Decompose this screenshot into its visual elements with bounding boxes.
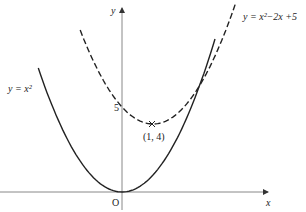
curve-label-shifted: y = x²−2x +5 <box>242 11 297 22</box>
parabola-shifted-dashed <box>80 5 235 124</box>
parabola-x-squared <box>38 39 215 192</box>
origin-label: O <box>112 197 119 208</box>
y-axis-label: y <box>110 5 116 16</box>
graph-canvas: y x O 5 (1, 4) y = x² y = x²−2x +5 <box>0 0 306 212</box>
x-axis-label: x <box>265 197 271 208</box>
curve-label-x-squared: y = x² <box>7 83 33 94</box>
y-intercept-label: 5 <box>114 102 119 113</box>
vertex-label: (1, 4) <box>143 131 165 143</box>
